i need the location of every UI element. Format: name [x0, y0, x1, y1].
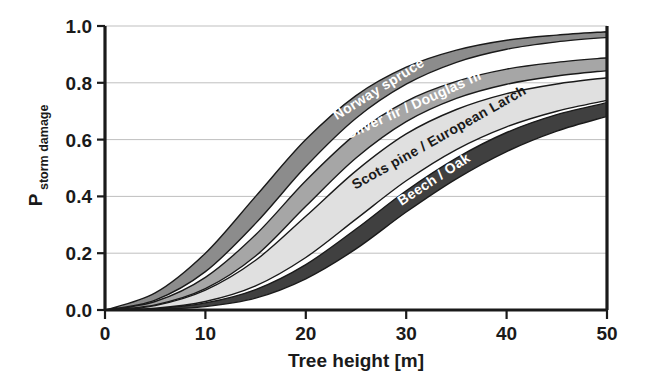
chart-background — [0, 0, 650, 380]
x-tick-label: 50 — [596, 323, 617, 344]
y-tick-label: 0.8 — [66, 73, 92, 94]
y-tick-label: 1.0 — [66, 16, 92, 37]
y-tick-label: 0.0 — [66, 300, 92, 321]
x-tick-label: 40 — [496, 323, 517, 344]
y-axis-title-main: P — [25, 193, 46, 206]
storm-damage-probability-chart: 0.00.20.40.60.81.0 01020304050 Norway sp… — [0, 0, 650, 380]
y-tick-label: 0.2 — [66, 243, 92, 264]
x-tick-label: 20 — [295, 323, 316, 344]
y-axis-title-subscript: storm damage — [37, 105, 51, 190]
x-tick-label: 30 — [396, 323, 417, 344]
x-tick-label: 10 — [195, 323, 216, 344]
x-tick-label: 0 — [100, 323, 111, 344]
y-tick-label: 0.6 — [66, 130, 92, 151]
y-tick-label: 0.4 — [66, 186, 93, 207]
x-axis-title: Tree height [m] — [288, 350, 424, 371]
chart-container: 0.00.20.40.60.81.0 01020304050 Norway sp… — [0, 0, 650, 380]
